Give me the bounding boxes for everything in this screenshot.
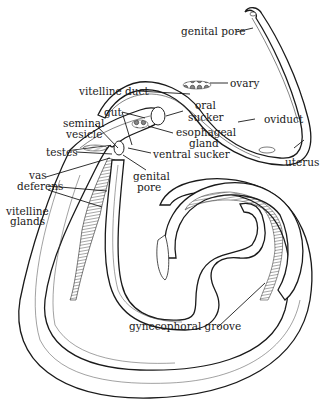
- label-vas-deferens-2: deferens: [17, 180, 63, 192]
- label-oviduct: oviduct: [264, 113, 304, 125]
- label-genital-pore-top: genital pore: [181, 25, 246, 37]
- female-tip: [157, 235, 169, 280]
- label-oral-sucker-2: sucker: [188, 111, 225, 123]
- label-seminal-vesicle-2: vesicle: [65, 128, 102, 140]
- label-ovary: ovary: [230, 77, 260, 89]
- label-uterus: uterus: [285, 156, 319, 168]
- schistosome-illustration: genital pore ovary vitelline duct gut or…: [0, 0, 325, 406]
- label-vitelline-duct: vitelline duct: [78, 85, 149, 97]
- oral-sucker: [151, 107, 165, 125]
- ventral-sucker: [114, 141, 124, 155]
- label-vitelline-glands-2: glands: [10, 215, 45, 227]
- label-gynecophoral-groove: gynecophoral groove: [129, 320, 241, 332]
- male-fold: [165, 183, 303, 300]
- female-body: [98, 8, 311, 330]
- label-testes: testes: [46, 146, 78, 158]
- label-genital-pore-mid-2: pore: [137, 181, 161, 193]
- label-oral-sucker-1: oral: [195, 99, 217, 111]
- label-ventral-sucker: ventral sucker: [152, 148, 231, 160]
- diagram-canvas: genital pore ovary vitelline duct gut or…: [0, 0, 325, 406]
- label-gut: gut: [104, 106, 122, 118]
